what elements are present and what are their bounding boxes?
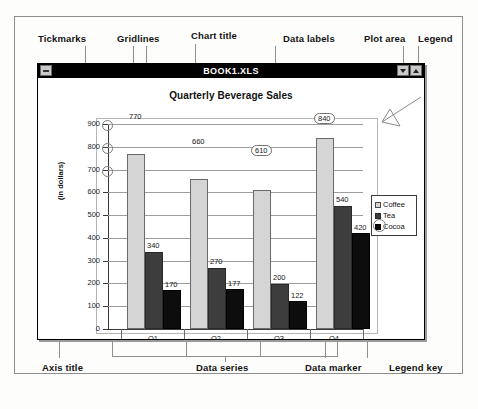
- ylabel-800: 800: [87, 143, 100, 151]
- datalabel-q4-tea: 540: [336, 195, 349, 204]
- callout-data-series: Data series: [196, 362, 248, 373]
- window-titlebar: BOOK1.XLS: [38, 64, 424, 79]
- ytick-100: [103, 306, 108, 307]
- chart-title: Quarterly Beverage Sales: [38, 90, 424, 101]
- legend-key-highlight: [373, 219, 386, 232]
- legend-item-coffee[interactable]: Coffee: [375, 199, 413, 210]
- pointer-arrow-icon: [378, 96, 422, 130]
- bar-q1-coffee[interactable]: [127, 154, 145, 329]
- ylabel-900: 900: [87, 120, 100, 128]
- bar-q4-tea[interactable]: [334, 206, 352, 329]
- figure-page: Tickmarks Gridlines Chart title Data lab…: [0, 0, 478, 409]
- bar-q1-cocoa[interactable]: [163, 290, 181, 329]
- ylabel-300: 300: [87, 257, 100, 265]
- legend[interactable]: Coffee Tea Cocoa: [371, 195, 417, 236]
- minimize-box-icon[interactable]: [40, 65, 52, 76]
- legend-key-tea-icon: [375, 213, 381, 219]
- excel-window: BOOK1.XLS Quarterly Beverage Sales: [37, 63, 425, 340]
- xsep-2: [247, 329, 248, 339]
- datalabel-q3-cocoa: 122: [291, 291, 304, 300]
- callout-data-marker: Data marker: [305, 362, 362, 373]
- bar-q2-coffee[interactable]: [190, 179, 208, 329]
- ylabel-100: 100: [87, 302, 100, 310]
- triangle-down-icon[interactable]: [397, 65, 409, 76]
- ylabel-200: 200: [87, 279, 100, 287]
- datalabel-q3-coffee: 610: [251, 145, 272, 156]
- callout-plot-area: Plot area: [364, 33, 405, 44]
- bar-q4-coffee[interactable]: [316, 138, 334, 329]
- datalabel-q2-coffee: 660: [192, 137, 205, 146]
- ylabel-500: 500: [87, 211, 100, 219]
- bracket-data-series-stem: [225, 356, 226, 362]
- legend-label-coffee: Coffee: [383, 200, 405, 209]
- datalabel-q1-tea: 340: [147, 241, 160, 250]
- ylabel-700: 700: [87, 166, 100, 174]
- window-body: Quarterly Beverage Sales: [38, 78, 424, 339]
- bar-q4-cocoa[interactable]: [352, 233, 370, 329]
- datalabel-q1-coffee: 770: [129, 112, 142, 121]
- legend-label-tea: Tea: [383, 211, 395, 220]
- triangle-up-icon[interactable]: [410, 65, 422, 76]
- bar-q1-tea[interactable]: [145, 252, 163, 329]
- ytick-0: [103, 329, 108, 330]
- tickmark-highlight-700: [102, 166, 113, 177]
- ytick-300: [103, 261, 108, 262]
- plot-area: 900 800 700 600 500 400 300 200 100 0 (i…: [108, 124, 363, 329]
- ytick-500: [103, 215, 108, 216]
- callout-axis-title: Axis title: [42, 362, 83, 373]
- callout-chart-title: Chart title: [191, 30, 237, 41]
- xlabel-q1: Q1: [123, 334, 183, 339]
- callout-data-labels: Data labels: [283, 33, 335, 44]
- xlabel-q2: Q2: [186, 334, 246, 339]
- tickmark-highlight-900: [102, 120, 113, 131]
- bar-q3-coffee[interactable]: [253, 190, 271, 329]
- tickmark-highlight-800: [102, 143, 113, 154]
- xlabel-q3: Q3: [249, 334, 309, 339]
- xsep-0: [121, 329, 122, 339]
- ytick-200: [103, 283, 108, 284]
- bar-q3-cocoa[interactable]: [289, 301, 307, 329]
- ylabel-600: 600: [87, 188, 100, 196]
- datalabel-q4-coffee: 840: [314, 113, 335, 124]
- xsep-1: [184, 329, 185, 339]
- datalabel-q1-cocoa: 170: [165, 280, 178, 289]
- callout-gridlines: Gridlines: [117, 33, 160, 44]
- ylabel-400: 400: [87, 234, 100, 242]
- xlabel-q4: Q4: [304, 334, 364, 339]
- legend-label-cocoa: Cocoa: [383, 222, 405, 231]
- callout-legend-key: Legend key: [389, 362, 443, 373]
- y-axis-title: (in dollars): [56, 162, 65, 200]
- bar-q3-tea[interactable]: [271, 284, 289, 329]
- ylabel-0: 0: [96, 325, 100, 333]
- datalabel-q4-cocoa: 420: [354, 223, 367, 232]
- datalabel-q2-tea: 270: [210, 257, 223, 266]
- datalabel-q2-cocoa: 177: [228, 279, 241, 288]
- window-title: BOOK1.XLS: [203, 66, 259, 76]
- callout-tickmarks: Tickmarks: [38, 33, 86, 44]
- callout-legend: Legend: [418, 33, 453, 44]
- bar-q2-cocoa[interactable]: [226, 289, 244, 329]
- bar-q2-tea[interactable]: [208, 268, 226, 329]
- ytick-400: [103, 238, 108, 239]
- y-axis: [108, 124, 109, 329]
- ytick-600: [103, 192, 108, 193]
- x-axis: [108, 329, 364, 330]
- datalabel-q3-tea: 200: [273, 273, 286, 282]
- gridline-900: [108, 124, 363, 125]
- legend-key-coffee-icon: [375, 202, 381, 208]
